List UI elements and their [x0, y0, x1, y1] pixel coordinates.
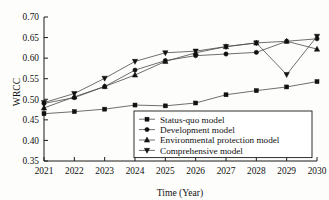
series-line	[44, 39, 317, 104]
data-point	[132, 59, 137, 64]
x-tick-label: 2021	[35, 166, 54, 176]
x-tick-label: 2030	[308, 166, 327, 176]
data-point	[254, 50, 258, 54]
legend-marker	[145, 117, 149, 121]
series-1	[42, 37, 319, 106]
x-tick-label: 2027	[217, 166, 236, 176]
data-point	[72, 110, 76, 114]
y-tick-label: 0.40	[23, 136, 40, 146]
y-tick-label: 0.65	[23, 33, 40, 43]
y-tick-label: 0.70	[23, 12, 40, 22]
data-point	[315, 80, 319, 84]
x-tick-label: 2025	[156, 166, 175, 176]
series-line	[44, 82, 317, 114]
x-tick-label: 2028	[247, 166, 266, 176]
x-tick-label: 2023	[95, 166, 114, 176]
y-tick-label: 0.50	[23, 95, 40, 105]
x-tick-label: 2026	[186, 166, 205, 176]
data-series-layer	[41, 34, 319, 115]
chart-legend: Status-quo modelDevelopment modelEnviron…	[134, 111, 312, 158]
series-line	[44, 36, 317, 102]
x-tick-label: 2024	[126, 166, 145, 176]
series-2	[41, 38, 319, 110]
data-point	[163, 104, 167, 108]
data-point	[284, 73, 289, 78]
legend-label: Comprehensive model	[160, 146, 243, 156]
y-tick-label: 0.60	[23, 53, 40, 63]
legend-label: Development model	[160, 125, 235, 135]
chart-svg: 0.350.400.450.500.550.600.650.70 2021202…	[0, 0, 329, 200]
x-tick-label: 2029	[277, 166, 296, 176]
series-0	[42, 80, 319, 116]
legend-label: Environmental protection model	[160, 135, 280, 145]
data-point	[102, 76, 107, 81]
x-axis-ticks: 2021202220232024202520262027202820292030	[35, 157, 327, 176]
legend-marker	[145, 127, 149, 131]
data-point	[42, 112, 46, 116]
y-tick-label: 0.45	[23, 115, 40, 125]
data-point	[285, 85, 289, 89]
data-point	[254, 89, 258, 93]
x-axis-title: Time (Year)	[157, 187, 203, 199]
series-line	[44, 41, 317, 108]
data-point	[103, 107, 107, 111]
y-tick-label: 0.35	[23, 156, 40, 166]
data-point	[133, 103, 137, 107]
data-point	[194, 101, 198, 105]
legend-item: Environmental protection model	[139, 135, 280, 145]
x-tick-label: 2022	[65, 166, 84, 176]
legend-label: Status-quo model	[160, 115, 225, 125]
data-point	[224, 93, 228, 97]
chart-figure: 0.350.400.450.500.550.600.650.70 2021202…	[0, 0, 329, 200]
y-axis-title: WRCC	[11, 78, 22, 106]
data-point	[224, 52, 228, 56]
y-tick-label: 0.55	[23, 74, 40, 84]
